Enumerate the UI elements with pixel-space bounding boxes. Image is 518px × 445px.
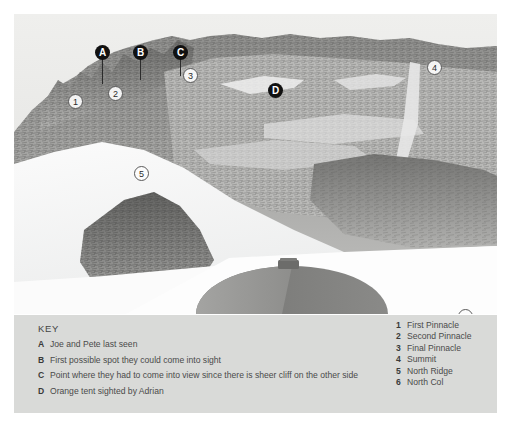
key-item-c-id: C — [38, 370, 50, 380]
key-item-c: C Point where they had to come into view… — [38, 370, 378, 380]
key-item-1: 1 First Pinnacle — [396, 320, 496, 330]
key-item-1-id: 1 — [396, 320, 407, 330]
key-item-c-text: Point where they had to come into view s… — [50, 370, 358, 380]
key-item-5-id: 5 — [396, 366, 407, 376]
key-item-a-id: A — [38, 339, 50, 349]
marker-badge-2[interactable]: 2 — [108, 86, 123, 101]
key-title: KEY — [38, 323, 59, 334]
key-item-d-text: Orange tent sighted by Adrian — [50, 386, 164, 396]
leader-line-C — [180, 58, 181, 76]
key-item-5: 5 North Ridge — [396, 366, 496, 376]
key-item-a: A Joe and Pete last seen — [38, 339, 378, 349]
key-item-6-text: North Col — [407, 377, 443, 387]
key-item-2-text: Second Pinnacle — [407, 331, 472, 341]
key-item-d: D Orange tent sighted by Adrian — [38, 386, 378, 396]
key-item-d-id: D — [38, 386, 50, 396]
key-item-b: B First possible spot they could come in… — [38, 355, 378, 365]
page-root: A B C D 1 2 3 4 5 6 KEY A Joe and Pete l… — [0, 0, 518, 445]
key-item-4: 4 Summit — [396, 354, 496, 364]
key-item-6-id: 6 — [396, 377, 407, 387]
key-item-a-text: Joe and Pete last seen — [50, 339, 137, 349]
key-item-3-id: 3 — [396, 343, 407, 353]
key-item-4-id: 4 — [396, 354, 407, 364]
key-item-6: 6 North Col — [396, 377, 496, 387]
marker-badge-4[interactable]: 4 — [427, 60, 442, 75]
mountain-photograph: A B C D 1 2 3 4 5 6 — [14, 14, 497, 314]
leader-line-A — [102, 58, 103, 84]
key-item-b-id: B — [38, 355, 50, 365]
key-item-3: 3 Final Pinnacle — [396, 343, 496, 353]
key-letter-list: A Joe and Pete last seen B First possibl… — [38, 339, 378, 401]
marker-badge-5[interactable]: 5 — [134, 166, 149, 181]
key-item-b-text: First possible spot they could come into… — [50, 355, 221, 365]
key-item-4-text: Summit — [407, 354, 436, 364]
leader-line-B — [140, 58, 141, 80]
marker-badge-C[interactable]: C — [173, 45, 188, 60]
key-item-2-id: 2 — [396, 331, 407, 341]
key-item-1-text: First Pinnacle — [407, 320, 459, 330]
key-item-2: 2 Second Pinnacle — [396, 331, 496, 341]
marker-badge-B[interactable]: B — [133, 45, 148, 60]
marker-badge-1[interactable]: 1 — [68, 94, 83, 109]
marker-badge-A[interactable]: A — [95, 45, 110, 60]
marker-badge-3[interactable]: 3 — [183, 68, 198, 83]
photo-scene — [14, 14, 497, 314]
key-item-5-text: North Ridge — [407, 366, 453, 376]
key-panel: KEY A Joe and Pete last seen B First pos… — [14, 315, 497, 413]
key-number-list: 1 First Pinnacle 2 Second Pinnacle 3 Fin… — [396, 320, 496, 388]
key-item-3-text: Final Pinnacle — [407, 343, 461, 353]
marker-badge-D[interactable]: D — [268, 83, 283, 98]
